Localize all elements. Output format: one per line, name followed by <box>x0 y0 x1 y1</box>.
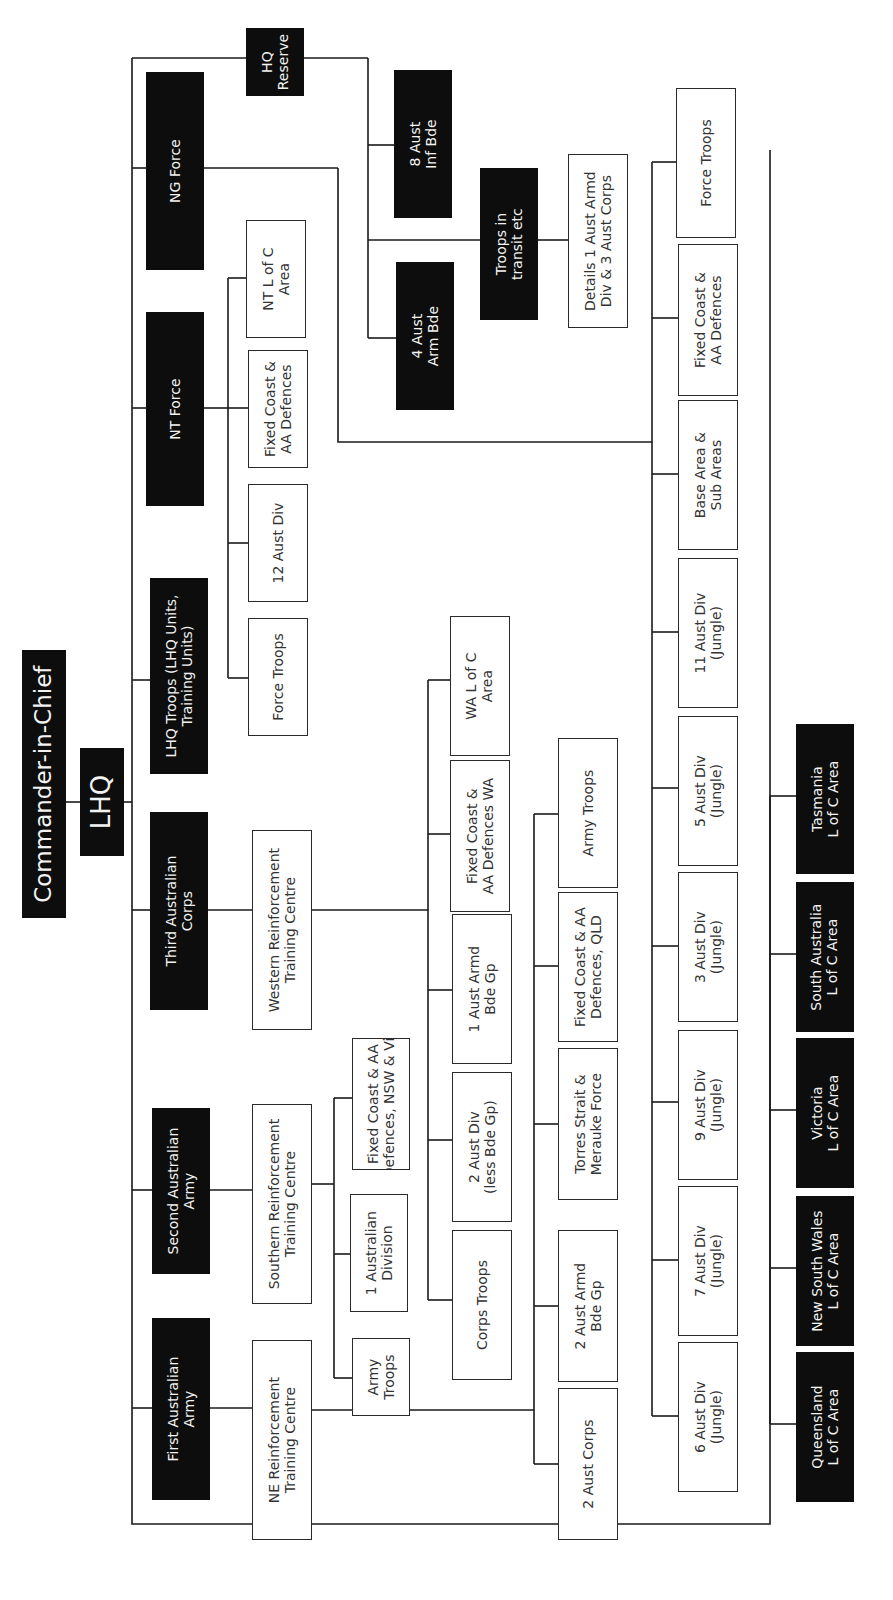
node-label: 7 Aust Div (Jungle) <box>692 1225 724 1297</box>
node-vic-loc: Victoria L of C Area <box>796 1038 854 1188</box>
node-9-aust-div: 9 Aust Div (Jungle) <box>678 1030 738 1180</box>
node-s-rtc: Southern Reinforcement Training Centre <box>252 1104 312 1304</box>
node-6-aust-div: 6 Aust Div (Jungle) <box>678 1342 738 1492</box>
node-label: Southern Reinforcement Training Centre <box>266 1119 298 1289</box>
node-label: NT L of C Area <box>260 247 292 310</box>
node-label: Army Troops <box>365 1354 397 1399</box>
node-label: 2 Aust Div (less Bde Gp) <box>466 1100 498 1194</box>
node-nt-force-troops: Force Troops <box>248 618 308 736</box>
node-7-aust-div: 7 Aust Div (Jungle) <box>678 1186 738 1336</box>
node-label: Commander-in-Chief <box>31 665 57 902</box>
node-label: Fixed Coast & AA Defences <box>692 272 724 368</box>
node-3-aust-div: 3 Aust Div (Jungle) <box>678 872 738 1022</box>
node-first-army: First Australian Army <box>152 1318 210 1500</box>
node-label: Fixed Coast & AA Defences, NSW & Vic <box>365 1038 397 1170</box>
node-label: Fixed Coast & AA Defences <box>262 361 294 457</box>
node-army-troops-2: Army Troops <box>352 1338 410 1416</box>
node-corps-troops: Corps Troops <box>452 1230 512 1380</box>
node-label: 6 Aust Div (Jungle) <box>692 1381 724 1453</box>
node-label: LHQ <box>87 775 117 830</box>
node-5-aust-div: 5 Aust Div (Jungle) <box>678 716 738 866</box>
node-label: 5 Aust Div (Jungle) <box>692 755 724 827</box>
node-label: 1 Australian Division <box>363 1211 395 1295</box>
node-label: NE Reinforcement Training Centre <box>266 1377 298 1503</box>
node-nt-fixed: Fixed Coast & AA Defences <box>248 350 308 468</box>
node-label: Third Australian Corps <box>163 856 195 967</box>
node-4-aust-arm-bde: 4 Aust Arm Bde <box>396 262 454 410</box>
node-12-aust-div: 12 Aust Div <box>248 484 308 602</box>
node-label: 2 Aust Armd Bde Gp <box>572 1263 604 1350</box>
node-troops-transit: Troops in transit etc <box>480 168 538 320</box>
node-label: WA L of C Area <box>464 652 496 719</box>
node-label: 9 Aust Div (Jungle) <box>692 1069 724 1141</box>
node-tas-loc: Tasmania L of C Area <box>796 724 854 874</box>
node-ng-base-area: Base Area & Sub Areas <box>678 400 738 550</box>
node-label: Details 1 Aust Armd Div & 3 Aust Corps <box>582 171 614 311</box>
node-1-aust-division: 1 Australian Division <box>350 1194 408 1312</box>
node-label: NG Force <box>167 139 183 203</box>
node-11-aust-div: 11 Aust Div (Jungle) <box>678 558 738 708</box>
node-qld-loc: Queensland L of C Area <box>796 1352 854 1502</box>
node-wa-loc: WA L of C Area <box>450 616 510 756</box>
node-2-aust-div: 2 Aust Div (less Bde Gp) <box>452 1072 512 1222</box>
node-label: Force Troops <box>698 119 714 207</box>
node-lhq: LHQ <box>80 748 124 856</box>
node-sa-loc: South Australia L of C Area <box>796 882 854 1032</box>
org-chart: Commander-in-ChiefLHQFirst Australian Ar… <box>0 0 893 1600</box>
node-details-1-armd: Details 1 Aust Armd Div & 3 Aust Corps <box>568 154 628 328</box>
node-army-troops-1: Army Troops <box>558 738 618 888</box>
node-2-aust-armd-bde: 2 Aust Armd Bde Gp <box>558 1230 618 1382</box>
node-label: Corps Troops <box>474 1260 490 1350</box>
node-label: Second Australian Army <box>165 1128 197 1255</box>
node-label: Tasmania L of C Area <box>809 761 841 838</box>
node-label: Troops in transit etc <box>493 208 525 280</box>
node-label: 2 Aust Corps <box>580 1419 596 1508</box>
node-label: South Australia L of C Area <box>809 903 841 1010</box>
node-label: Force Troops <box>270 633 286 721</box>
node-label: 11 Aust Div (Jungle) <box>692 593 724 674</box>
node-nt-force: NT Force <box>146 312 204 506</box>
node-lhq-troops: LHQ Troops (LHQ Units, Training Units) <box>150 578 208 774</box>
node-fixed-nsw-vic: Fixed Coast & AA Defences, NSW & Vic <box>352 1038 410 1170</box>
node-label: Fixed Coast & AA Defences WA <box>464 778 496 895</box>
node-fixed-wa: Fixed Coast & AA Defences WA <box>450 760 510 912</box>
node-second-army: Second Australian Army <box>152 1108 210 1274</box>
node-label: 12 Aust Div <box>270 503 286 584</box>
node-label: 4 Aust Arm Bde <box>409 306 441 366</box>
node-ne-rtc: NE Reinforcement Training Centre <box>252 1340 312 1540</box>
node-label: First Australian Army <box>165 1357 197 1462</box>
node-cinc: Commander-in-Chief <box>22 650 66 918</box>
node-label: Fixed Coast & AA Defences, QLD <box>572 907 604 1027</box>
node-label: Western Reinforcement Training Centre <box>266 848 298 1012</box>
node-nt-loc: NT L of C Area <box>246 220 306 338</box>
node-third-corps: Third Australian Corps <box>150 812 208 1010</box>
node-label: Base Area & Sub Areas <box>692 432 724 518</box>
node-label: 3 Aust Div (Jungle) <box>692 911 724 983</box>
node-label: HQ Reserve <box>259 34 291 90</box>
node-label: 1 Aust Armd Bde Gp <box>466 946 498 1033</box>
node-2-aust-corps: 2 Aust Corps <box>558 1388 618 1540</box>
node-1-aust-armd-bde: 1 Aust Armd Bde Gp <box>452 914 512 1064</box>
node-label: 8 Aust Inf Bde <box>407 119 439 169</box>
node-ng-force: NG Force <box>146 72 204 270</box>
connector-lines <box>0 0 893 1600</box>
node-ng-fixed: Fixed Coast & AA Defences <box>678 244 738 396</box>
node-label: NT Force <box>167 378 183 439</box>
node-label: Queensland L of C Area <box>809 1385 841 1469</box>
node-hq-reserve: HQ Reserve <box>246 28 304 96</box>
node-label: New South Wales L of C Area <box>809 1210 841 1331</box>
node-label: LHQ Troops (LHQ Units, Training Units) <box>163 594 195 757</box>
node-fixed-qld: Fixed Coast & AA Defences, QLD <box>558 892 618 1042</box>
node-nsw-loc: New South Wales L of C Area <box>796 1196 854 1346</box>
node-label: Torres Strait & Merauke Force <box>572 1073 604 1175</box>
node-torres-strait: Torres Strait & Merauke Force <box>558 1048 618 1200</box>
node-label: Victoria L of C Area <box>809 1075 841 1152</box>
node-label: Army Troops <box>580 770 596 857</box>
node-ng-force-troops: Force Troops <box>676 88 736 238</box>
node-w-rtc: Western Reinforcement Training Centre <box>252 830 312 1030</box>
node-8-aust-inf-bde: 8 Aust Inf Bde <box>394 70 452 218</box>
